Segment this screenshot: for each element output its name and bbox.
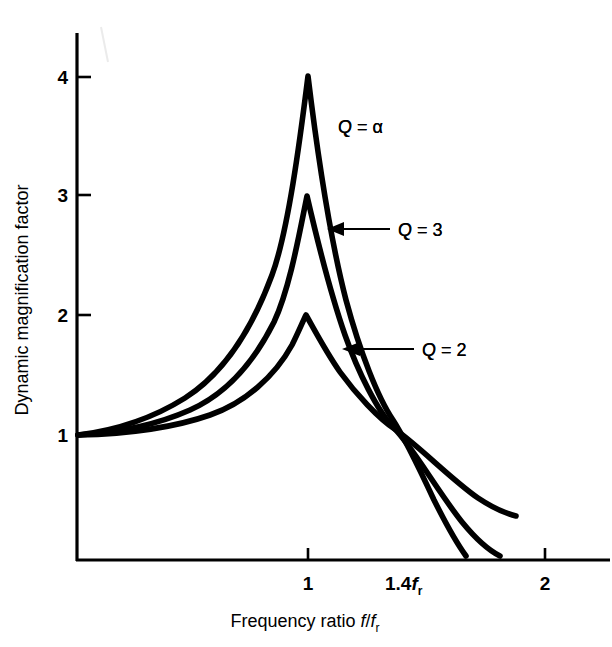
annotations-group: Q = α Q = α Q = 3 Q = 3 Q = 2 Q = 2 bbox=[327, 117, 467, 360]
scan-artifact-mark bbox=[101, 27, 108, 62]
curve-q-alpha bbox=[78, 76, 466, 556]
curve-label-q-alpha-text: Q = α bbox=[338, 117, 383, 137]
y-axis-ticks bbox=[77, 77, 91, 435]
chart-figure: 4 3 2 1 1 1.4fr 2 Frequency ratio f/fr D… bbox=[0, 0, 612, 647]
x-tick-label-1point4: 1.4fr bbox=[385, 573, 423, 598]
x-axis-title-subscript: r bbox=[376, 621, 380, 635]
chart-svg: 4 3 2 1 1 1.4fr 2 Frequency ratio f/fr D… bbox=[0, 0, 612, 647]
x-axis-title-prefix: Frequency ratio bbox=[230, 611, 360, 631]
y-axis-tick-labels: 4 3 2 1 bbox=[57, 67, 68, 446]
x-tick-label-1: 1 bbox=[303, 573, 314, 594]
curves-group bbox=[78, 76, 516, 556]
x-tick-1point4-number: 1.4 bbox=[385, 573, 412, 594]
x-axis-ticks bbox=[308, 548, 545, 560]
y-axis-title: Dynamic magnification factor bbox=[12, 184, 32, 415]
annotation-arrow-q-3 bbox=[327, 222, 390, 236]
x-axis-tick-labels: 1 1.4fr 2 bbox=[303, 573, 551, 598]
x-tick-label-2: 2 bbox=[540, 573, 551, 594]
x-tick-1point4-subscript: r bbox=[418, 584, 423, 598]
y-tick-label-4: 4 bbox=[57, 67, 68, 88]
y-tick-label-3: 3 bbox=[57, 185, 68, 206]
y-tick-label-2: 2 bbox=[57, 305, 68, 326]
curve-label-q-2-text: Q = 2 bbox=[422, 340, 467, 360]
y-tick-label-1: 1 bbox=[57, 425, 68, 446]
x-axis-title: Frequency ratio f/fr bbox=[230, 611, 379, 635]
curve-label-q-3-text: Q = 3 bbox=[398, 220, 443, 240]
